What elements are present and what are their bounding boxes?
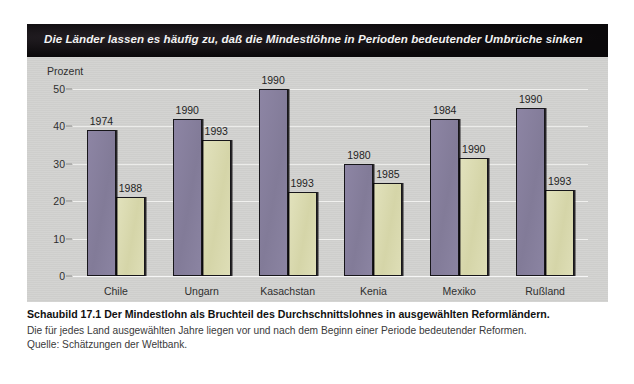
bar-group-ungarn: 19901993Ungarn <box>159 89 245 276</box>
caption-heading: Schaubild 17.1 Der Mindestlohn als Bruch… <box>27 308 608 320</box>
caption-source: Quelle: Schätzungen der Weltbank. <box>27 338 608 352</box>
bar-value-label: 1990 <box>176 104 199 116</box>
x-axis-category-label: Rußland <box>525 285 565 297</box>
y-axis-tick-label: 30 <box>53 158 65 170</box>
title-banner: Die Länder lassen es häufig zu, daß die … <box>27 24 608 57</box>
bar-mexiko-1984[interactable]: 1984 <box>430 119 459 276</box>
bar-kenia-1985[interactable]: 1985 <box>373 183 402 277</box>
bar-value-label: 1988 <box>119 182 142 194</box>
x-axis-category-label: Mexiko <box>443 285 476 297</box>
caption-note: Die für jedes Land ausgewählten Jahre li… <box>27 324 608 338</box>
y-axis-tick-label: 20 <box>53 195 65 207</box>
x-axis-category-label: Kasachstan <box>260 285 315 297</box>
bar-value-label: 1990 <box>519 93 542 105</box>
x-axis-category-label: Chile <box>104 285 128 297</box>
x-axis-category-label: Ungarn <box>185 285 219 297</box>
bar-group-kasachstan: 19901993Kasachstan <box>245 89 331 276</box>
bar-ungarn-1993[interactable]: 1993 <box>202 140 231 277</box>
figure-title: Die Länder lassen es häufig zu, daß die … <box>44 32 600 45</box>
y-axis-tick-label: 50 <box>53 83 65 95</box>
bar-ungarn-1990[interactable]: 1990 <box>173 119 202 276</box>
plot-area: 0102030405019741988Chile19901993Ungarn19… <box>73 89 588 276</box>
y-axis-tick-mark-10 <box>66 238 72 239</box>
y-axis-tick-mark-30 <box>66 163 72 164</box>
gridline-0 <box>73 276 588 277</box>
bar-group-rußland: 19901993Rußland <box>502 89 588 276</box>
bar-kasachstan-1990[interactable]: 1990 <box>259 89 288 276</box>
y-axis-tick-label: 10 <box>53 233 65 245</box>
bar-value-label: 1985 <box>376 168 399 180</box>
y-axis-tick-label: 0 <box>59 270 65 282</box>
bar-chile-1974[interactable]: 1974 <box>87 130 116 276</box>
y-axis-tick-mark-20 <box>66 201 72 202</box>
y-axis-tick-mark-50 <box>66 89 72 90</box>
bar-group-kenia: 19801985Kenia <box>331 89 417 276</box>
bar-value-label: 1980 <box>347 149 370 161</box>
bar-value-label: 1993 <box>290 177 313 189</box>
bar-value-label: 1974 <box>90 115 113 127</box>
bar-group-chile: 19741988Chile <box>73 89 159 276</box>
bar-value-label: 1990 <box>462 143 485 155</box>
figure-container: Die Länder lassen es häufig zu, daß die … <box>22 12 614 370</box>
y-axis-tick-mark-0 <box>66 276 72 277</box>
bar-mexiko-1990[interactable]: 1990 <box>459 158 488 276</box>
bar-rußland-1990[interactable]: 1990 <box>516 108 545 276</box>
bar-chile-1988[interactable]: 1988 <box>116 197 145 276</box>
figure-caption: Schaubild 17.1 Der Mindestlohn als Bruch… <box>27 308 608 352</box>
y-axis-unit-label: Prozent <box>47 65 83 77</box>
y-axis-tick-label: 40 <box>53 120 65 132</box>
chart-panel: Prozent 0102030405019741988Chile19901993… <box>27 57 608 302</box>
bar-group-mexiko: 19841990Mexiko <box>416 89 502 276</box>
bar-kasachstan-1993[interactable]: 1993 <box>288 192 317 276</box>
bar-value-label: 1993 <box>205 125 228 137</box>
bar-kenia-1980[interactable]: 1980 <box>344 164 373 276</box>
x-axis-category-label: Kenia <box>360 285 387 297</box>
bar-rußland-1993[interactable]: 1993 <box>545 190 574 276</box>
bar-value-label: 1984 <box>433 104 456 116</box>
bar-value-label: 1990 <box>261 74 284 86</box>
bar-value-label: 1993 <box>548 175 571 187</box>
y-axis-tick-mark-40 <box>66 126 72 127</box>
